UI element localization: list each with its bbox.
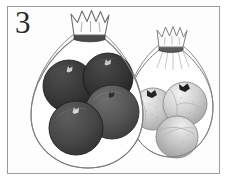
right-bag xyxy=(128,27,213,159)
pomegranate-bottom xyxy=(156,116,198,158)
apple-front-left xyxy=(49,101,103,155)
fruit-bags-illustration xyxy=(7,6,220,174)
fruit-bags-svg xyxy=(7,6,220,174)
left-bag-crown xyxy=(71,11,109,36)
left-bag xyxy=(31,11,143,169)
illustration-card: 3 xyxy=(0,0,228,182)
